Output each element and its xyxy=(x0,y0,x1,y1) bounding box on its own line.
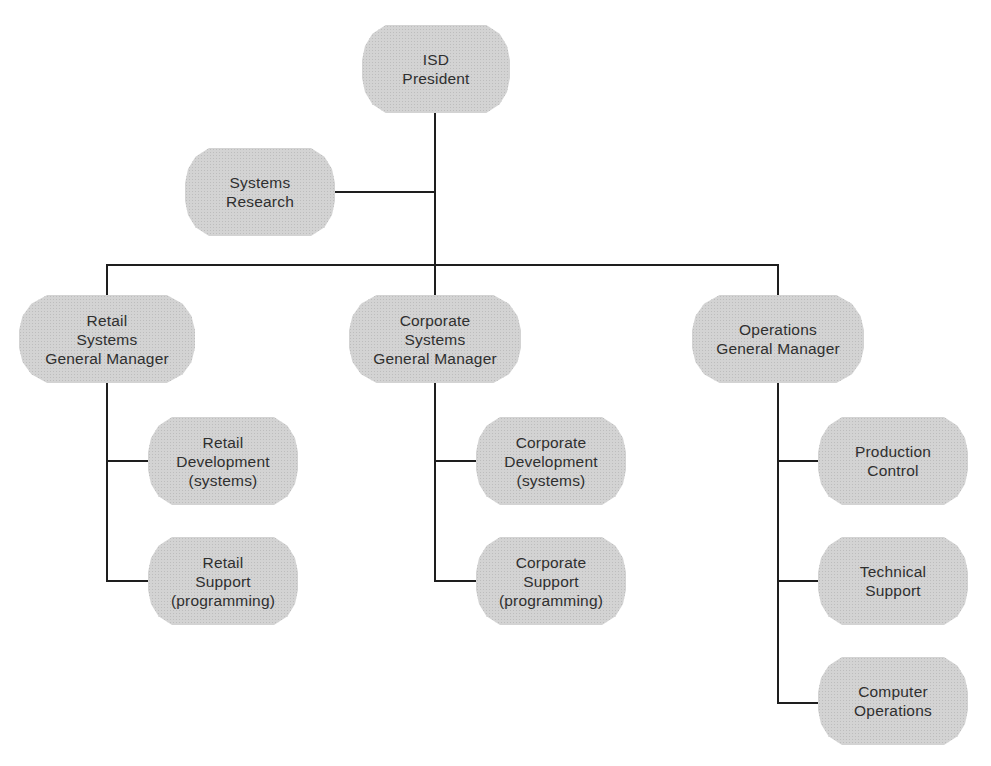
connector-root-vertical xyxy=(434,112,436,266)
connector-retail-drop xyxy=(106,264,108,296)
node-label: Systems Research xyxy=(226,173,294,211)
connector-technical-support xyxy=(777,580,820,582)
node-label: Corporate Support (programming) xyxy=(499,553,603,610)
connector-corporate-development xyxy=(434,460,478,462)
node-corporate-support: Corporate Support (programming) xyxy=(476,537,626,625)
node-computer-operations: Computer Operations xyxy=(818,657,968,745)
node-label: ISD President xyxy=(402,50,469,88)
node-label: Corporate Development (systems) xyxy=(504,433,598,490)
node-production-control: Production Control xyxy=(818,417,968,505)
node-retail-development: Retail Development (systems) xyxy=(148,417,298,505)
connector-production-control xyxy=(777,460,820,462)
connector-operations-drop xyxy=(777,264,779,296)
node-systems-research: Systems Research xyxy=(185,148,335,236)
connector-operations-branch-vertical xyxy=(777,382,779,704)
node-isd-president: ISD President xyxy=(362,25,510,113)
node-retail-support: Retail Support (programming) xyxy=(148,537,298,625)
connector-computer-operations xyxy=(777,702,820,704)
node-corporate-systems-gm: Corporate Systems General Manager xyxy=(349,295,521,383)
connector-corporate-drop xyxy=(434,264,436,296)
node-retail-systems-gm: Retail Systems General Manager xyxy=(19,295,195,383)
node-label: Production Control xyxy=(855,442,931,480)
node-operations-gm: Operations General Manager xyxy=(692,295,864,383)
node-label: Retail Systems General Manager xyxy=(45,311,169,368)
node-label: Technical Support xyxy=(860,562,926,600)
connector-retail-branch-vertical xyxy=(106,382,108,582)
connector-retail-development xyxy=(106,460,150,462)
connector-systems-research xyxy=(334,191,435,193)
connector-retail-support xyxy=(106,580,150,582)
connector-division-bar xyxy=(106,264,779,266)
node-label: Computer Operations xyxy=(854,682,932,720)
node-corporate-development: Corporate Development (systems) xyxy=(476,417,626,505)
node-label: Retail Support (programming) xyxy=(171,553,275,610)
node-label: Operations General Manager xyxy=(716,320,840,358)
connector-corporate-branch-vertical xyxy=(434,382,436,582)
node-technical-support: Technical Support xyxy=(818,537,968,625)
connector-corporate-support xyxy=(434,580,478,582)
node-label: Corporate Systems General Manager xyxy=(373,311,497,368)
node-label: Retail Development (systems) xyxy=(176,433,270,490)
org-chart: ISD President Systems Research Retail Sy… xyxy=(0,0,991,766)
